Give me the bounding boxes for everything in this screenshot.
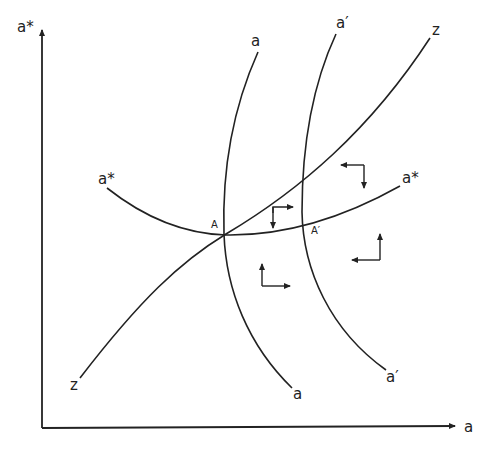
arrow-pair-up-right (262, 264, 290, 286)
curve-a-prime-bottom-label: a′ (386, 368, 399, 386)
arrow-pair-right-down (273, 207, 293, 228)
x-axis-label: a (464, 418, 473, 436)
curve-a (224, 52, 292, 388)
curve-z-bottom-label: z (70, 376, 78, 394)
curve-z (80, 38, 430, 378)
curve-a-prime (302, 34, 386, 370)
point-A-prime-label: A′ (311, 225, 321, 236)
arrow-pair-up-left (352, 234, 380, 260)
diagram-canvas: a* a a a a′ a′ z z a* a* A A′ (0, 0, 501, 460)
arrow-pair-left-down (341, 165, 364, 188)
curve-a-star-right-label: a* (402, 169, 419, 187)
curve-a-bottom-label: a (293, 385, 302, 403)
x-axis (42, 426, 455, 428)
curve-a-prime-top-label: a′ (336, 14, 349, 32)
point-A-label: A (211, 219, 218, 230)
curve-a-star-left-label: a* (98, 170, 115, 188)
curve-a-top-label: a (251, 32, 260, 50)
curve-z-top-label: z (432, 21, 440, 39)
y-axis-label: a* (17, 18, 34, 36)
curve-a-star (107, 186, 400, 235)
